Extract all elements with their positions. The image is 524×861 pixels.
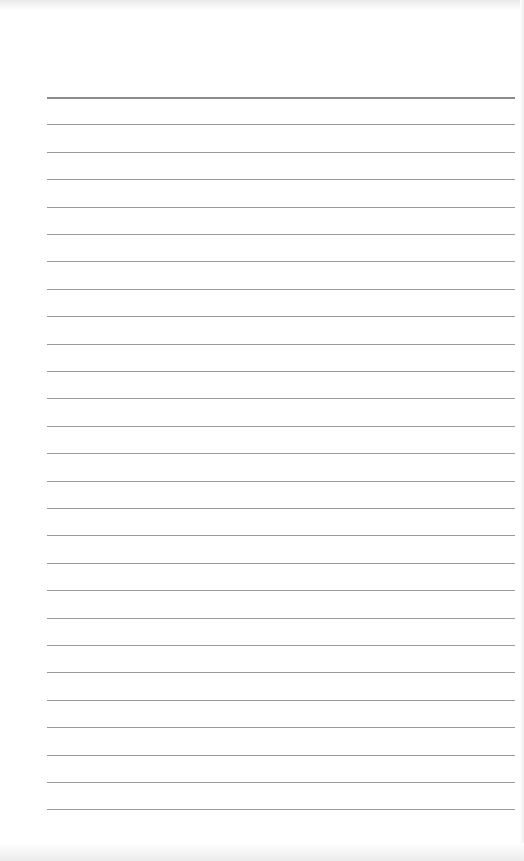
rule-line xyxy=(47,672,515,673)
rule-line xyxy=(47,782,515,783)
lined-paper-sheet xyxy=(0,0,524,861)
rule-line xyxy=(47,481,515,482)
rule-line xyxy=(47,645,515,646)
rule-line xyxy=(47,700,515,701)
rule-line xyxy=(47,234,515,235)
rule-line xyxy=(47,207,515,208)
rule-line xyxy=(47,371,515,372)
rule-line xyxy=(47,755,515,756)
rule-line xyxy=(47,344,515,345)
scan-edge-bottom xyxy=(0,843,524,861)
rule-line xyxy=(47,809,515,810)
rule-line xyxy=(47,179,515,180)
rule-line xyxy=(47,261,515,262)
rule-line xyxy=(47,289,515,290)
rule-line xyxy=(47,535,515,536)
rule-line xyxy=(47,563,515,564)
scan-edge-top xyxy=(0,0,524,10)
rule-line xyxy=(47,453,515,454)
rule-line xyxy=(47,508,515,509)
scan-edge-right xyxy=(520,0,524,861)
rule-line xyxy=(47,426,515,427)
header-rule-line xyxy=(47,97,515,99)
rule-line xyxy=(47,124,515,125)
rule-line xyxy=(47,590,515,591)
rule-line xyxy=(47,316,515,317)
rule-line xyxy=(47,618,515,619)
rule-line xyxy=(47,727,515,728)
rule-line xyxy=(47,398,515,399)
rule-line xyxy=(47,152,515,153)
